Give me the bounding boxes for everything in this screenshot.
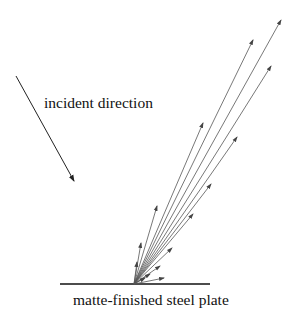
reflected-ray-arrow-icon	[134, 66, 271, 284]
incident-direction-label: incident direction	[44, 95, 153, 111]
reflected-ray-arrow-icon	[134, 214, 193, 284]
steel-plate-label: matte-finished steel plate	[73, 292, 229, 308]
reflected-rays-fan	[134, 20, 281, 284]
reflected-ray-arrow-icon	[134, 20, 281, 284]
reflected-ray-arrow-icon	[134, 40, 253, 284]
reflected-ray-arrow-icon	[134, 123, 203, 284]
reflected-ray-arrow-icon	[134, 137, 237, 284]
incident-arrow-icon	[16, 76, 74, 181]
reflection-diagram	[0, 0, 300, 316]
incident-arrow-line	[16, 76, 74, 181]
reflected-ray-arrow-icon	[134, 206, 157, 284]
reflected-ray-arrow-icon	[134, 184, 211, 284]
